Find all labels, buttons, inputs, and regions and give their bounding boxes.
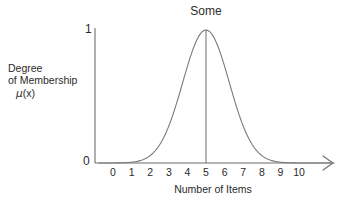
y-axis-tick-1: 1 <box>85 22 92 36</box>
x-axis-label: Number of Items <box>153 183 273 195</box>
y-axis-label: Degree of Membership μ(x) <box>8 62 77 99</box>
mu-argument: (x) <box>23 87 35 99</box>
membership-function-figure: Some Degree of Membership μ(x) 1 0 01234… <box>0 0 350 205</box>
y-axis-label-line-2: of Membership <box>8 74 77 86</box>
y-axis-tick-0: 0 <box>83 154 90 168</box>
y-axis-label-line-1: Degree <box>8 62 42 74</box>
mu-symbol: μ <box>16 87 23 99</box>
chart-title: Some <box>170 4 242 18</box>
x-axis-tick-10: 10 <box>288 166 310 178</box>
membership-curve <box>99 30 334 163</box>
y-axis-label-line-3: μ(x) <box>8 87 77 99</box>
